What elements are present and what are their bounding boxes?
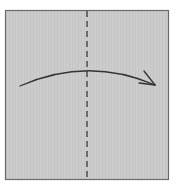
origami-diagram: [0, 0, 176, 190]
